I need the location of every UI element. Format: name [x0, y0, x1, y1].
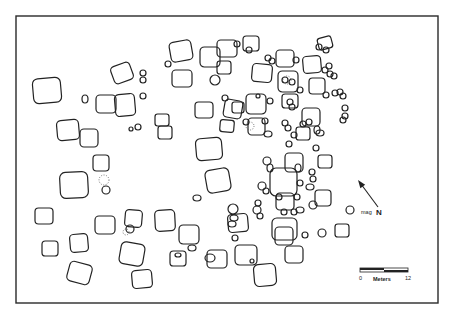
structure-feature [95, 216, 115, 234]
structure-feature [275, 227, 293, 245]
structure-feature [276, 50, 294, 67]
structure-feature [285, 246, 303, 263]
scale-bar-filled-segment [360, 268, 384, 270]
pit-feature [310, 176, 316, 182]
pit-feature [294, 194, 300, 200]
structure-feature [335, 224, 349, 237]
pit-feature [222, 95, 228, 101]
structure-feature [195, 137, 223, 161]
structure-feature [243, 36, 259, 51]
pit-feature [295, 164, 301, 172]
structure-feature [93, 155, 109, 171]
structure-feature [155, 114, 169, 126]
pit-feature [188, 245, 196, 251]
pit-feature [264, 131, 272, 137]
pit-feature [297, 180, 303, 186]
pit-feature [342, 105, 348, 111]
pit-feature [230, 215, 238, 221]
structure-feature [296, 127, 310, 140]
scale-start-label: 0 [359, 275, 362, 281]
scale-bar: 0 12 Meters [359, 268, 411, 282]
possible-feature [246, 122, 254, 130]
structure-feature [172, 70, 192, 87]
pit-feature [165, 61, 171, 67]
possible-feature [99, 175, 109, 185]
structure-feature [318, 155, 332, 168]
pit-feature [228, 221, 236, 227]
structure-feature [59, 171, 88, 198]
structure-feature [66, 260, 93, 285]
pit-feature [210, 75, 220, 85]
pit-feature [267, 164, 273, 172]
pit-feature [193, 195, 201, 201]
structure-feature [80, 129, 98, 147]
structure-feature [220, 119, 235, 132]
pit-feature [302, 232, 308, 238]
structure-feature [315, 190, 331, 206]
pit-feature [140, 70, 146, 76]
pit-feature [326, 63, 332, 69]
structure-feature [131, 269, 152, 289]
structure-feature [114, 93, 136, 117]
pit-feature [282, 77, 288, 83]
pit-feature [232, 235, 238, 241]
pit-feature [257, 213, 263, 219]
pit-feature [250, 259, 254, 263]
structure-feature [282, 94, 298, 108]
scale-title: Meters [373, 276, 391, 282]
pit-feature [309, 169, 315, 175]
structure-feature [42, 241, 58, 256]
pit-feature [102, 186, 110, 194]
structure-feature [207, 250, 227, 268]
structure-feature [302, 55, 321, 74]
pit-feature [289, 79, 295, 85]
north-arrow: mag N [358, 180, 382, 217]
structure-feature [35, 208, 53, 224]
pit-feature [140, 77, 146, 83]
scale-bar-filled-segment [384, 270, 408, 272]
structure-feature [195, 102, 213, 118]
structure-feature [110, 61, 135, 85]
structure-feature [124, 209, 142, 227]
pit-feature [285, 125, 291, 131]
pit-feature [318, 229, 326, 237]
pit-feature [286, 141, 292, 147]
pit-feature [246, 47, 252, 53]
north-arrow-icon [358, 180, 365, 188]
structure-feature [309, 78, 325, 94]
structure-feature [179, 225, 199, 244]
structure-feature [302, 108, 320, 126]
structure-feature [317, 35, 334, 50]
pit-feature [276, 194, 282, 200]
structure-feature [204, 167, 232, 194]
pit-feature [346, 206, 354, 214]
site-plan-map: mag N 0 12 Meters [0, 0, 452, 310]
structure-feature [56, 119, 80, 141]
north-arrow-shaft [361, 184, 378, 207]
structure-feature [32, 77, 62, 104]
feature-layer [32, 35, 354, 288]
pit-feature [228, 204, 238, 214]
pit-feature [306, 119, 312, 125]
pit-feature [140, 93, 146, 99]
structure-feature [251, 63, 272, 83]
pit-feature [175, 253, 181, 257]
pit-feature [313, 145, 319, 151]
structure-feature [158, 126, 172, 139]
pit-feature [256, 94, 260, 98]
structure-feature [217, 61, 231, 74]
scale-end-label: 12 [405, 275, 411, 281]
north-label-prefix: mag [361, 209, 372, 215]
pit-feature [306, 184, 314, 190]
pit-feature [323, 92, 329, 98]
structure-feature [154, 209, 175, 231]
north-label: N [376, 208, 382, 217]
structure-feature [69, 233, 89, 253]
pit-feature [129, 127, 133, 131]
structure-feature [96, 95, 116, 113]
pit-feature [255, 200, 261, 206]
pit-feature [263, 188, 269, 194]
pit-feature [135, 124, 141, 130]
pit-feature [267, 98, 273, 104]
pit-feature [82, 95, 88, 103]
